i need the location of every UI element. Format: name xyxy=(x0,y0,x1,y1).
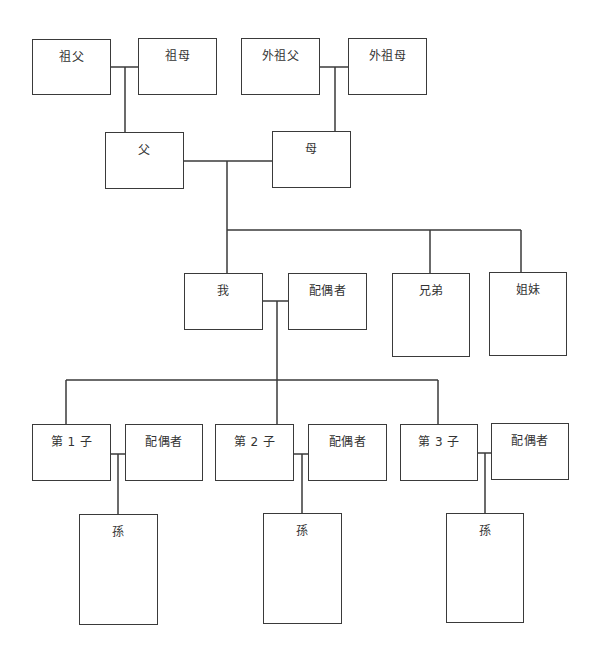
node-father: 父 xyxy=(105,132,184,189)
node-label: 外祖父 xyxy=(242,46,319,63)
node-sisters: 姐妹 xyxy=(489,272,567,356)
node-child-1-spouse: 配偶者 xyxy=(125,424,203,481)
node-self: 我 xyxy=(184,273,263,330)
node-label: 祖母 xyxy=(139,46,216,63)
node-label: 配偶者 xyxy=(492,431,568,448)
node-grandchild-3: 孫 xyxy=(446,513,524,623)
node-label: 孫 xyxy=(80,522,157,539)
node-maternal-grandfather: 外祖父 xyxy=(241,38,320,95)
node-label: 配偶者 xyxy=(126,432,202,449)
node-child-3: 第 3 子 xyxy=(400,424,478,481)
node-self-spouse: 配偶者 xyxy=(288,273,367,330)
node-mother: 母 xyxy=(272,131,351,188)
node-grandchild-2: 孫 xyxy=(263,513,342,624)
node-brothers: 兄弟 xyxy=(392,273,470,357)
node-label: 兄弟 xyxy=(393,281,469,298)
node-label: 配偶者 xyxy=(309,432,386,449)
node-label: 父 xyxy=(106,140,183,157)
node-label: 祖父 xyxy=(33,47,110,64)
node-child-2: 第 2 子 xyxy=(215,424,294,481)
node-label: 孫 xyxy=(447,521,523,538)
node-paternal-grandmother: 祖母 xyxy=(138,38,217,95)
node-child-3-spouse: 配偶者 xyxy=(491,423,569,480)
node-label: 姐妹 xyxy=(490,280,566,297)
node-child-2-spouse: 配偶者 xyxy=(308,424,387,481)
node-label: 外祖母 xyxy=(349,46,426,63)
node-child-1: 第 1 子 xyxy=(32,424,111,481)
node-label: 第 2 子 xyxy=(216,432,293,449)
node-label: 孫 xyxy=(264,521,341,538)
node-label: 配偶者 xyxy=(289,281,366,298)
node-label: 第 1 子 xyxy=(33,432,110,449)
node-grandchild-1: 孫 xyxy=(79,514,158,625)
node-maternal-grandmother: 外祖母 xyxy=(348,38,427,95)
family-tree-diagram: 祖父 祖母 外祖父 外祖母 父 母 我 配偶者 兄弟 姐妹 第 1 子 配偶者 … xyxy=(0,0,598,659)
node-paternal-grandfather: 祖父 xyxy=(32,39,111,95)
node-label: 母 xyxy=(273,139,350,156)
node-label: 第 3 子 xyxy=(401,432,477,449)
node-label: 我 xyxy=(185,281,262,298)
